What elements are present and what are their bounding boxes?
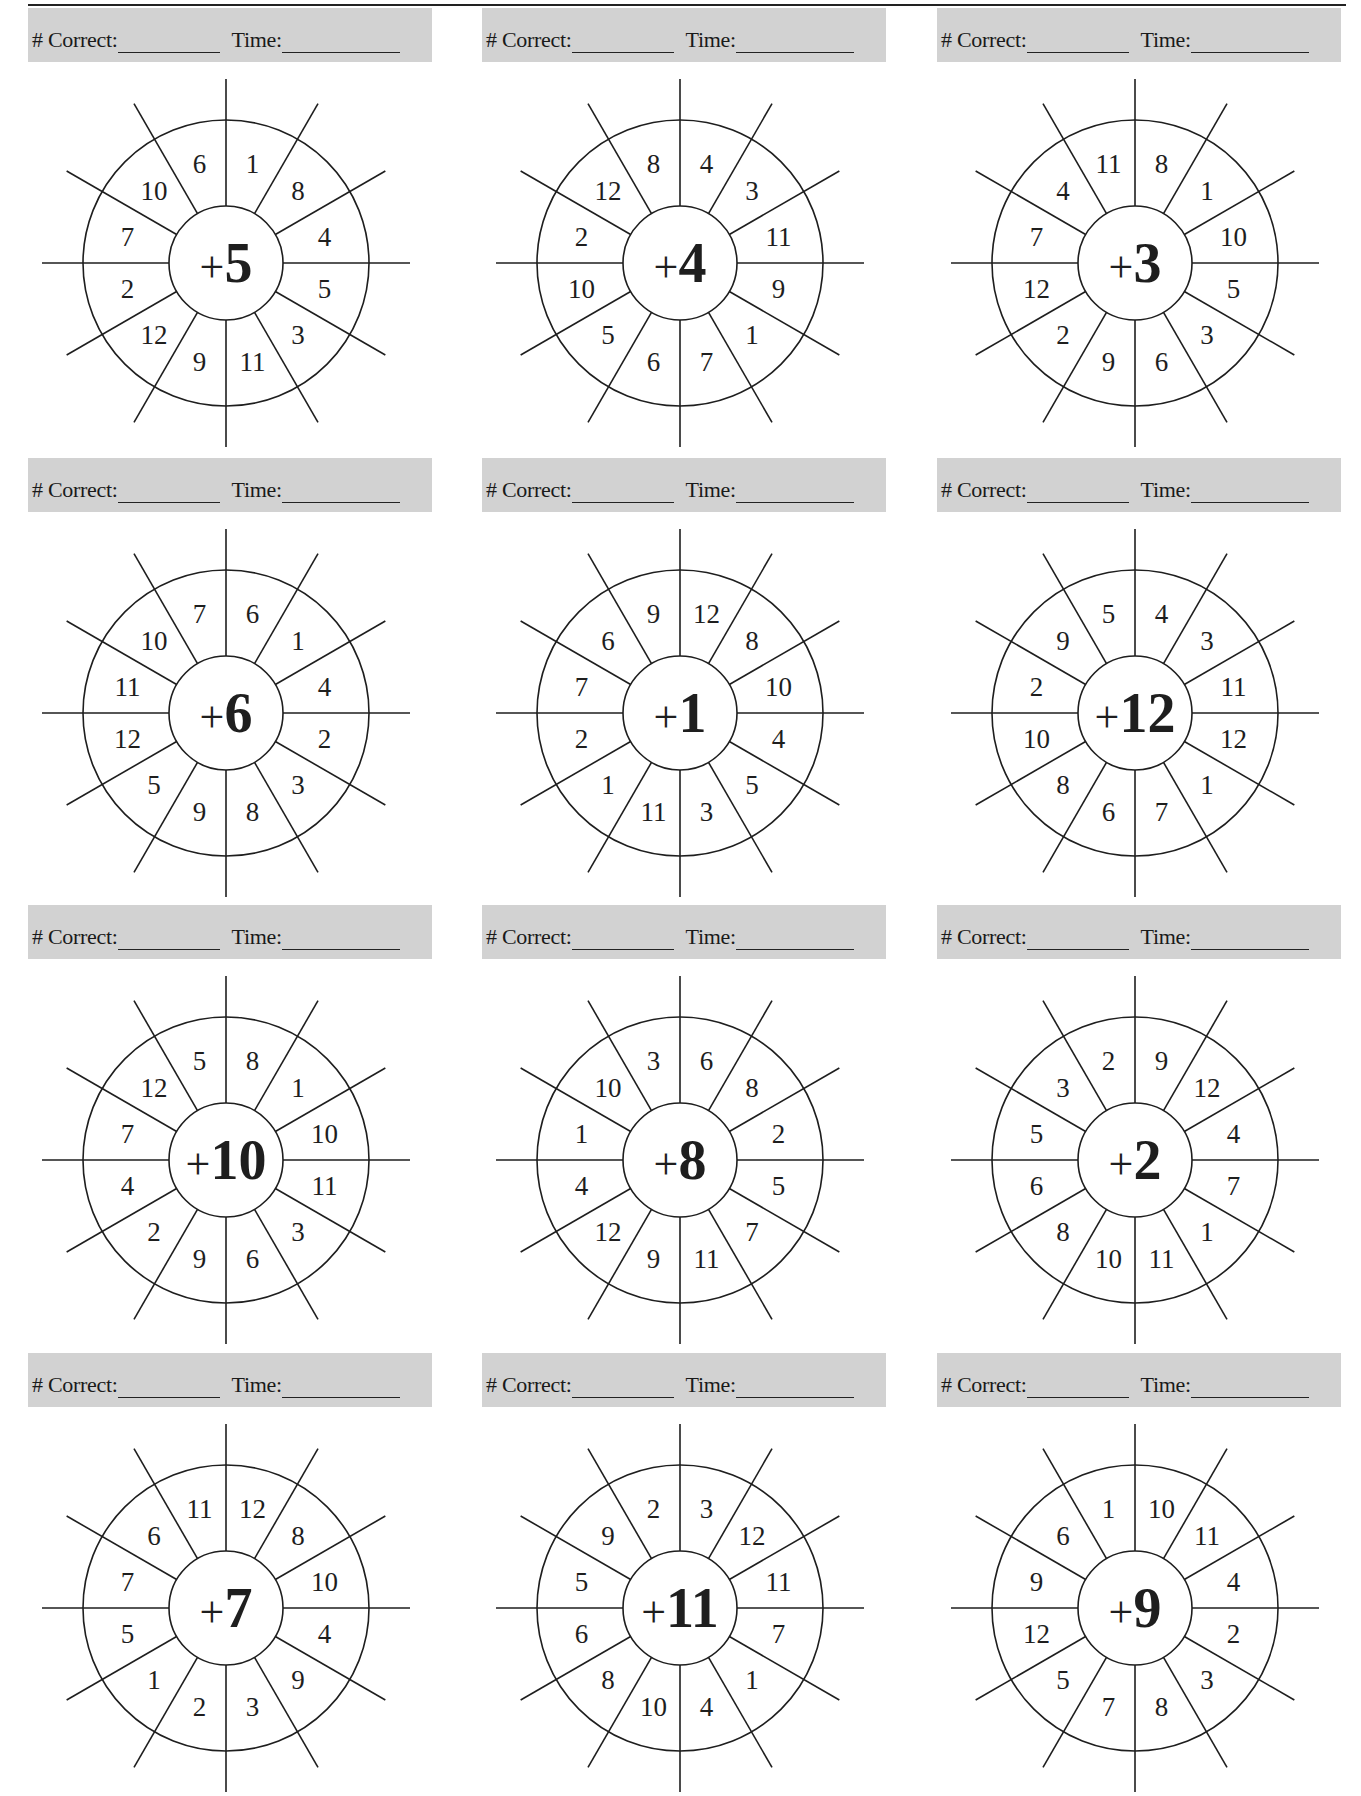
segment-number: 8 bbox=[1056, 1217, 1070, 1247]
segment-number: 6 bbox=[601, 626, 615, 656]
segment-number: 3 bbox=[700, 797, 714, 827]
addition-wheel: 682571191241103+8 bbox=[482, 959, 882, 1359]
time-blank[interactable] bbox=[736, 931, 854, 950]
time-blank[interactable] bbox=[282, 34, 400, 53]
addend-value: 9 bbox=[1133, 1577, 1161, 1639]
segment-number: 11 bbox=[1148, 1244, 1174, 1274]
segment-number: 6 bbox=[246, 599, 260, 629]
correct-blank[interactable] bbox=[1027, 34, 1129, 53]
segment-number: 10 bbox=[1023, 724, 1050, 754]
score-header: # Correct: Time: bbox=[28, 1353, 432, 1407]
segment-number: 8 bbox=[745, 626, 759, 656]
segment-number: 2 bbox=[318, 724, 332, 754]
addition-wheel: 811053692127411+3 bbox=[937, 62, 1337, 462]
correct-blank[interactable] bbox=[1027, 931, 1129, 950]
plus-sign: + bbox=[200, 243, 225, 292]
time-blank[interactable] bbox=[736, 1379, 854, 1398]
segment-number: 10 bbox=[765, 672, 792, 702]
addition-wheel: 811011369247125+10 bbox=[28, 959, 428, 1359]
time-blank[interactable] bbox=[1191, 484, 1309, 503]
time-blank[interactable] bbox=[736, 484, 854, 503]
correct-label: # Correct: bbox=[32, 924, 118, 950]
segment-number: 4 bbox=[1056, 176, 1070, 206]
segment-number: 6 bbox=[1056, 1521, 1070, 1551]
addend-value: 8 bbox=[678, 1129, 706, 1191]
segment-number: 2 bbox=[575, 724, 589, 754]
segment-number: 11 bbox=[1221, 672, 1247, 702]
segment-number: 1 bbox=[246, 149, 260, 179]
segment-number: 2 bbox=[1227, 1619, 1241, 1649]
spoke-line bbox=[134, 762, 198, 872]
time-blank[interactable] bbox=[1191, 931, 1309, 950]
segment-number: 12 bbox=[693, 599, 720, 629]
addend-value: 3 bbox=[1133, 232, 1161, 294]
correct-blank[interactable] bbox=[572, 34, 674, 53]
segment-number: 3 bbox=[1200, 320, 1214, 350]
addition-wheel: 101142387512961+9 bbox=[937, 1407, 1337, 1796]
score-header: # Correct: Time: bbox=[28, 905, 432, 959]
correct-blank[interactable] bbox=[118, 1379, 220, 1398]
correct-label: # Correct: bbox=[941, 27, 1027, 53]
correct-blank[interactable] bbox=[118, 34, 220, 53]
spoke-line bbox=[1164, 554, 1228, 664]
time-label: Time: bbox=[686, 1372, 736, 1398]
segment-number: 5 bbox=[193, 1046, 207, 1076]
time-blank[interactable] bbox=[282, 484, 400, 503]
segment-number: 5 bbox=[745, 770, 759, 800]
spoke-line bbox=[1164, 104, 1228, 214]
segment-number: 8 bbox=[291, 176, 305, 206]
segment-number: 1 bbox=[1200, 1217, 1214, 1247]
time-label: Time: bbox=[1141, 1372, 1191, 1398]
time-label: Time: bbox=[232, 27, 282, 53]
plus-sign: + bbox=[654, 1140, 679, 1189]
segment-number: 5 bbox=[121, 1619, 134, 1649]
correct-label: # Correct: bbox=[941, 924, 1027, 950]
time-label: Time: bbox=[232, 1372, 282, 1398]
spoke-line bbox=[1164, 1657, 1228, 1767]
correct-label: # Correct: bbox=[486, 477, 572, 503]
time-blank[interactable] bbox=[736, 34, 854, 53]
segment-number: 8 bbox=[291, 1521, 305, 1551]
segment-number: 11 bbox=[187, 1494, 213, 1524]
correct-blank[interactable] bbox=[572, 1379, 674, 1398]
segment-number: 11 bbox=[641, 797, 667, 827]
segment-number: 6 bbox=[246, 1244, 260, 1274]
addition-wheel-cell-plus-5: # Correct: Time: 184531191227106+5 bbox=[28, 8, 448, 448]
addend-value: 6 bbox=[224, 682, 252, 744]
addend-value: 1 bbox=[678, 682, 706, 744]
correct-label: # Correct: bbox=[486, 924, 572, 950]
time-blank[interactable] bbox=[282, 1379, 400, 1398]
time-blank[interactable] bbox=[1191, 1379, 1309, 1398]
correct-blank[interactable] bbox=[572, 484, 674, 503]
score-header: # Correct: Time: bbox=[937, 458, 1341, 512]
correct-blank[interactable] bbox=[572, 931, 674, 950]
score-header: # Correct: Time: bbox=[937, 8, 1341, 62]
correct-blank[interactable] bbox=[1027, 484, 1129, 503]
addition-wheel-cell-plus-9: # Correct: Time: 101142387512961+9 bbox=[937, 1353, 1357, 1793]
spoke-line bbox=[134, 1657, 198, 1767]
spoke-line bbox=[1043, 1657, 1107, 1767]
spoke-line bbox=[709, 1657, 773, 1767]
plus-sign: + bbox=[654, 693, 679, 742]
correct-blank[interactable] bbox=[1027, 1379, 1129, 1398]
segment-number: 12 bbox=[1023, 274, 1050, 304]
score-header: # Correct: Time: bbox=[937, 905, 1341, 959]
time-label: Time: bbox=[686, 477, 736, 503]
plus-sign: + bbox=[1095, 693, 1120, 742]
segment-number: 1 bbox=[601, 770, 615, 800]
spoke-line bbox=[709, 312, 773, 422]
segment-number: 10 bbox=[594, 1073, 621, 1103]
plus-sign: + bbox=[200, 693, 225, 742]
spoke-line bbox=[255, 554, 319, 664]
segment-number: 4 bbox=[318, 222, 332, 252]
correct-blank[interactable] bbox=[118, 484, 220, 503]
time-blank[interactable] bbox=[1191, 34, 1309, 53]
segment-number: 9 bbox=[291, 1665, 305, 1695]
time-blank[interactable] bbox=[282, 931, 400, 950]
correct-blank[interactable] bbox=[118, 931, 220, 950]
segment-number: 10 bbox=[1220, 222, 1247, 252]
segment-number: 8 bbox=[1056, 770, 1070, 800]
segment-number: 9 bbox=[193, 797, 207, 827]
segment-number: 12 bbox=[140, 320, 167, 350]
segment-number: 5 bbox=[147, 770, 161, 800]
